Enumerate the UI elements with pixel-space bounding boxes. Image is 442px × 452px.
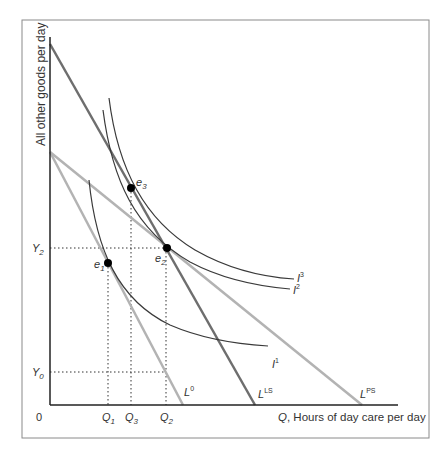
label-l0: L0 [184, 385, 194, 398]
x-tick-q2: Q2 [160, 411, 174, 426]
budget-line-l0 [50, 152, 183, 405]
budget-line-lps [50, 152, 362, 405]
budget-line-lls [50, 44, 255, 405]
label-e1: e1 [94, 258, 105, 273]
y-axis-label: All other goods per day [34, 23, 48, 146]
label-e3: e3 [136, 176, 147, 191]
figure-frame [22, 20, 429, 438]
label-i3: I3 [297, 271, 304, 284]
y-tick-y2: Y2 [32, 242, 44, 257]
origin-label: 0 [36, 411, 42, 423]
label-lls: LLS [258, 387, 273, 400]
label-lps: LPS [360, 387, 376, 400]
equilibrium-point-e3 [127, 184, 135, 192]
budget-constraint-diagram: All other goods per day 0 Y2 Y0 Q1 Q3 Q2… [0, 0, 442, 452]
x-tick-q3: Q3 [125, 411, 139, 426]
x-axis-label: Q, Hours of day care per day [278, 411, 426, 423]
y-tick-y0: Y0 [32, 366, 44, 381]
equilibrium-point-e1 [104, 259, 112, 267]
equilibrium-point-e2 [163, 244, 171, 252]
label-i1: I1 [272, 357, 279, 370]
label-e2: e2 [155, 252, 166, 267]
indifference-curve-i3 [109, 98, 294, 279]
indifference-curve-i2 [103, 110, 290, 289]
x-tick-q1: Q1 [102, 411, 115, 426]
label-i2: I2 [293, 283, 300, 296]
